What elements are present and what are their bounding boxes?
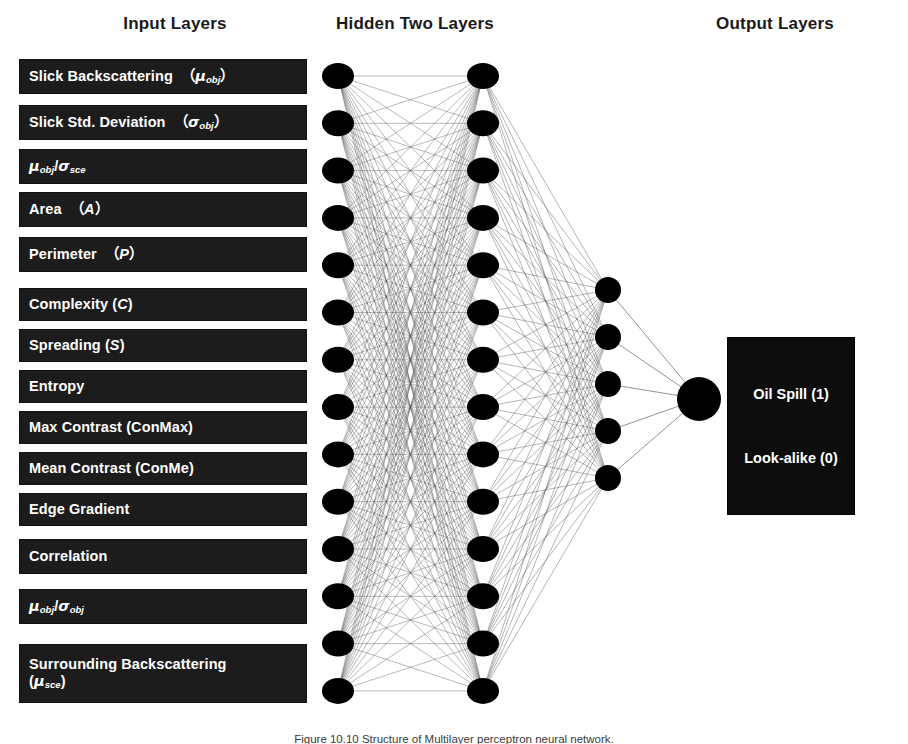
- network-edge: [483, 290, 608, 644]
- network-edge: [338, 265, 483, 691]
- network-edge: [338, 171, 483, 266]
- network-edge: [338, 123, 483, 454]
- network-edge: [338, 123, 483, 643]
- network-edge: [338, 265, 483, 407]
- network-edge: [338, 407, 483, 549]
- network-edge: [338, 407, 483, 502]
- network-edge: [338, 360, 483, 407]
- network-edge: [338, 123, 483, 170]
- hidden-layer-1-node: [322, 63, 354, 89]
- network-edge: [338, 76, 483, 596]
- hidden-layer-1-node: [322, 347, 354, 373]
- network-edge: [483, 76, 608, 478]
- network-edge: [483, 76, 608, 384]
- network-edge: [483, 384, 608, 644]
- network-edge: [483, 123, 608, 384]
- network-edge: [483, 337, 608, 502]
- network-edge: [483, 76, 608, 431]
- hidden-layer-1-node: [322, 631, 354, 657]
- network-edge: [338, 123, 483, 549]
- network-edge: [338, 502, 483, 644]
- input-feature-box: Slick Std. Deviation （σobj）: [20, 106, 306, 139]
- network-edge: [608, 290, 699, 399]
- network-edge: [483, 218, 608, 431]
- network-edge: [483, 384, 608, 596]
- network-edge: [483, 123, 608, 290]
- network-edge: [338, 171, 483, 644]
- network-edge: [338, 313, 483, 455]
- network-edge: [338, 360, 483, 597]
- network-edge: [338, 502, 483, 549]
- network-edge: [338, 265, 483, 691]
- network-edge: [338, 218, 483, 691]
- input-feature-label: μobj/σsce: [29, 158, 86, 175]
- network-edge: [338, 313, 483, 644]
- network-edge: [338, 171, 483, 549]
- network-edge: [338, 171, 483, 455]
- network-edge: [338, 454, 483, 596]
- network-edge: [338, 76, 483, 265]
- network-edge: [338, 218, 483, 596]
- network-edge: [483, 384, 608, 549]
- network-edge: [483, 290, 608, 454]
- network-edge: [608, 384, 699, 399]
- network-edge: [338, 171, 483, 266]
- network-edge: [483, 360, 608, 384]
- network-edge: [338, 76, 483, 454]
- network-edge: [338, 360, 483, 549]
- network-edge: [338, 123, 483, 596]
- network-edge: [483, 290, 608, 407]
- network-edge: [338, 360, 483, 407]
- network-edge: [483, 265, 608, 290]
- input-feature-box: Edge Gradient: [20, 494, 306, 525]
- input-feature-box: μobj/σobj: [20, 590, 306, 623]
- network-edge: [338, 313, 483, 408]
- hidden-layer-2-node: [467, 252, 499, 278]
- network-edge: [338, 407, 483, 691]
- input-feature-label: Slick Backscattering （μobj）: [29, 68, 234, 85]
- network-edge: [483, 384, 608, 454]
- network-edge: [338, 123, 483, 501]
- network-edge: [338, 76, 483, 644]
- network-edge: [338, 171, 483, 691]
- network-edge: [483, 478, 608, 596]
- input-feature-label: Max Contrast (ConMax): [29, 419, 193, 436]
- figure-caption: Figure 10.10 Structure of Multilayer per…: [0, 733, 908, 744]
- network-edge: [338, 218, 483, 549]
- network-edge: [338, 407, 483, 691]
- network-edge: [483, 384, 608, 407]
- network-edge: [483, 76, 608, 290]
- network-edge: [338, 123, 483, 265]
- input-feature-label: Entropy: [29, 378, 84, 395]
- input-feature-box: Spreading (S): [20, 330, 306, 361]
- network-edge: [338, 454, 483, 549]
- network-edge: [338, 313, 483, 502]
- network-edge: [338, 218, 483, 502]
- hidden-layer-2-node: [467, 678, 499, 704]
- network-edge: [338, 454, 483, 691]
- network-edge: [483, 431, 608, 549]
- network-edge: [338, 454, 483, 691]
- network-edge: [338, 123, 483, 501]
- hidden-layer-3-node: [595, 324, 621, 350]
- hidden-layer-1-node: [322, 300, 354, 326]
- network-edge: [338, 123, 483, 643]
- network-edge: [338, 407, 483, 643]
- network-edge: [338, 596, 483, 691]
- network-edge: [338, 265, 483, 596]
- network-edge: [338, 549, 483, 644]
- network-edge: [338, 171, 483, 408]
- network-edge: [338, 76, 483, 691]
- input-feature-box: Correlation: [20, 540, 306, 573]
- network-edge: [338, 171, 483, 502]
- network-edge: [338, 76, 483, 454]
- network-edge: [483, 431, 608, 454]
- hidden-layer-1-node: [322, 441, 354, 467]
- network-edge: [483, 218, 608, 384]
- network-edge: [338, 171, 483, 597]
- input-feature-label: μobj/σobj: [29, 598, 84, 615]
- network-edge: [338, 123, 483, 265]
- network-edge: [483, 171, 608, 431]
- network-edge: [608, 399, 699, 478]
- network-edge: [338, 76, 483, 407]
